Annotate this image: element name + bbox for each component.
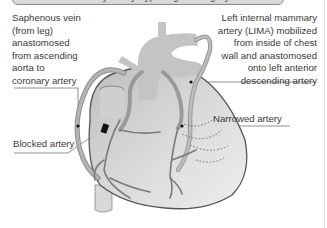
blocked-artery-label: Blocked artery [13,138,74,151]
saphenous-vein-label: Saphenous vein (from leg) anastomosed fr… [12,12,102,88]
lima-label: Left internal mammary artery (LIMA) mobi… [187,12,317,88]
narrowed-artery-label: Narrowed artery [213,113,282,126]
